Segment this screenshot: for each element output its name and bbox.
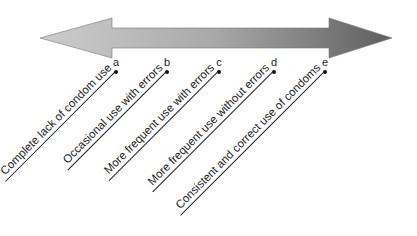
double-headed-arrow-shape [40,18,392,58]
marker-letter-e: e [322,57,328,68]
marker-letter-a: a [113,57,119,68]
marker-letter-d: d [271,57,277,68]
condom-use-continuum-diagram: a b c d e Complete lack of condom use Oc… [0,0,417,236]
marker-letter-b: b [164,57,170,68]
marker-letter-c: c [216,57,222,68]
